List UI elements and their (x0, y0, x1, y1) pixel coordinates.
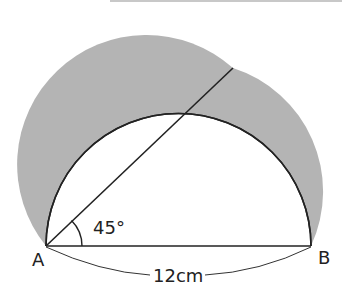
point-b-label: B (318, 247, 330, 268)
dimension-curve-left (46, 247, 150, 275)
length-label: 12cm (153, 265, 203, 286)
dimension-curve-right (205, 247, 311, 275)
angle-label: 45° (93, 217, 125, 238)
point-a-label: A (32, 249, 45, 270)
geometry-figure: A B 45° 12cm (0, 0, 347, 289)
